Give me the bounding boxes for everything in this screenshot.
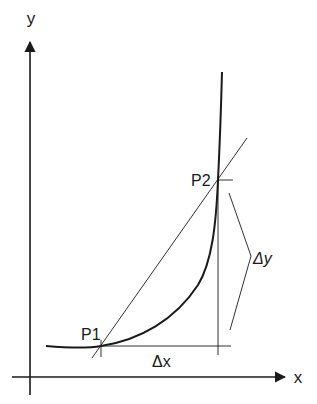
delta-x-label: Δx	[152, 353, 171, 370]
x-axis-label: x	[294, 368, 303, 387]
function-curve	[46, 72, 222, 348]
y-axis-label: y	[27, 9, 36, 28]
point-label-p1: P1	[81, 326, 101, 343]
secant-diagram: y x P1 P2 Δx Δy	[0, 0, 317, 404]
delta-y-bracket	[229, 193, 251, 330]
secant-line	[92, 138, 247, 358]
point-label-p2: P2	[191, 172, 211, 189]
diagram-canvas: y x P1 P2 Δx Δy	[0, 0, 317, 404]
delta-y-label: Δy	[252, 250, 273, 267]
